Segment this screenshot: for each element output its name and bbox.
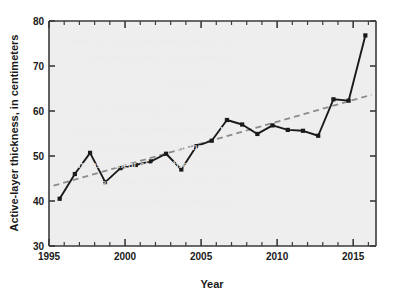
svg-text:60: 60 [33, 106, 45, 117]
x-axis-tick-labels: 19952000200520102015 [38, 251, 365, 262]
plot-background [49, 21, 376, 246]
chart-figure: and the total of the sum between theof t… [0, 0, 393, 294]
svg-text:2015: 2015 [342, 251, 365, 262]
active-layer-thickness-line-chart: 304050607080 19952000200520102015 Year A… [0, 0, 393, 294]
svg-text:80: 80 [33, 16, 45, 27]
svg-text:30: 30 [33, 241, 45, 252]
svg-text:70: 70 [33, 61, 45, 72]
svg-text:2000: 2000 [114, 251, 137, 262]
svg-text:40: 40 [33, 196, 45, 207]
svg-text:50: 50 [33, 151, 45, 162]
svg-text:2005: 2005 [190, 251, 213, 262]
y-axis-title: Active-layer thickness, in centimeters [8, 35, 20, 232]
svg-text:1995: 1995 [38, 251, 61, 262]
x-axis-title: Year [200, 278, 224, 290]
svg-text:2010: 2010 [266, 251, 289, 262]
y-axis-tick-labels: 304050607080 [33, 16, 45, 252]
